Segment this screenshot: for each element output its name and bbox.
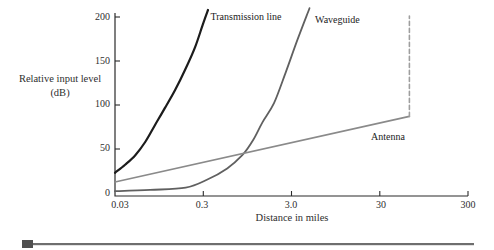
curve-waveguide xyxy=(115,8,310,191)
x-tick-label-0.03: 0.03 xyxy=(100,199,140,211)
x-tick-label-3.0: 3.0 xyxy=(271,199,311,211)
curve-transmission-line xyxy=(115,10,208,173)
curves xyxy=(115,8,409,191)
axis-ticks xyxy=(115,17,468,196)
x-tick-label-0.3: 0.3 xyxy=(182,199,222,211)
y-axis-title: Relative input level (dB) xyxy=(12,72,108,100)
y-tick-label-0: 0 xyxy=(78,187,110,199)
x-tick-label-300: 300 xyxy=(448,199,488,211)
bottom-rule xyxy=(22,240,474,248)
figure: Relative input level (dB) 200 150 100 50… xyxy=(0,0,494,250)
y-tick-label-50: 50 xyxy=(78,142,110,154)
y-tick-label-150: 150 xyxy=(78,55,110,67)
x-tick-label-30: 30 xyxy=(361,199,401,211)
y-tick-label-200: 200 xyxy=(78,11,110,23)
x-axis-title: Distance in miles xyxy=(242,211,342,224)
antenna-label: Antenna xyxy=(371,131,405,143)
transmission-line-label: Transmission line xyxy=(210,11,282,23)
bottom-rule-square xyxy=(22,240,33,248)
y-tick-label-100: 100 xyxy=(78,98,110,110)
curve-antenna xyxy=(115,116,409,182)
waveguide-label: Waveguide xyxy=(315,14,360,26)
bottom-rule-line xyxy=(33,243,474,245)
